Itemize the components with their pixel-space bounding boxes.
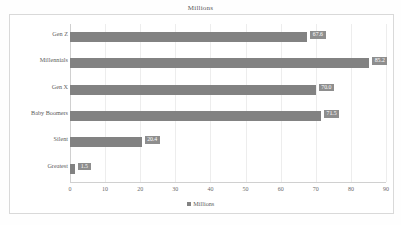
bar-row: Gen X70.0 <box>70 77 386 103</box>
bar-row: Silent20.4 <box>70 129 386 155</box>
bar-row: Greatest1.5 <box>70 156 386 182</box>
chart-title: Millions <box>0 4 401 12</box>
bar-row: Baby Boomers71.5 <box>70 103 386 129</box>
legend-swatch-icon <box>187 202 191 206</box>
category-label: Millennials <box>4 56 68 63</box>
category-label: Greatest <box>4 162 68 169</box>
bar[interactable] <box>70 58 369 68</box>
chart-container: Millions Gen Z67.6Millennials85.2Gen X70… <box>0 0 401 225</box>
x-tick-label: 80 <box>348 186 354 192</box>
plot-area: Gen Z67.6Millennials85.2Gen X70.0Baby Bo… <box>70 24 386 182</box>
bar-row: Millennials85.2 <box>70 50 386 76</box>
bar[interactable] <box>70 111 321 121</box>
x-tick-label: 40 <box>207 186 213 192</box>
bar-row: Gen Z67.6 <box>70 24 386 50</box>
x-tick-label: 50 <box>243 186 249 192</box>
bar-value-label: 20.4 <box>145 136 160 144</box>
legend-label: Millions <box>193 200 214 207</box>
x-tick-label: 70 <box>313 186 319 192</box>
bar[interactable] <box>70 32 307 42</box>
x-tick-label: 30 <box>172 186 178 192</box>
x-tick-label: 20 <box>137 186 143 192</box>
x-axis-line <box>70 182 386 183</box>
bar-value-label: 85.2 <box>372 57 387 65</box>
bar[interactable] <box>70 85 316 95</box>
x-tick-label: 60 <box>278 186 284 192</box>
bar[interactable] <box>70 164 75 174</box>
category-label: Silent <box>4 135 68 142</box>
bar-value-label: 1.5 <box>78 163 90 171</box>
bar-value-label: 70.0 <box>319 84 334 92</box>
category-label: Baby Boomers <box>4 109 68 116</box>
bar-value-label: 67.6 <box>310 31 325 39</box>
category-label: Gen Z <box>4 30 68 37</box>
category-label: Gen X <box>4 83 68 90</box>
x-tick-label: 10 <box>102 186 108 192</box>
chart-legend: Millions <box>0 199 401 207</box>
x-tick-label: 90 <box>383 186 389 192</box>
x-tick-label: 0 <box>69 186 72 192</box>
bar[interactable] <box>70 137 142 147</box>
bar-value-label: 71.5 <box>324 110 339 118</box>
gridline <box>386 24 387 182</box>
